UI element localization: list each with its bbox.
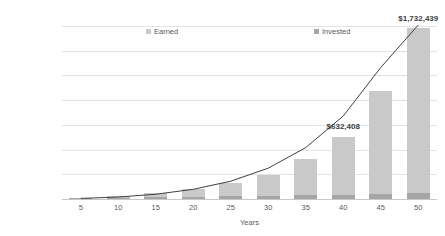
bar-segment-invested[interactable]: [182, 197, 205, 199]
bar-column[interactable]: [69, 198, 92, 199]
data-label: $1,732,439: [398, 14, 438, 23]
bar-segment-invested[interactable]: [219, 196, 242, 199]
x-axis-tick-label: 35: [302, 203, 310, 212]
gridline: [62, 199, 437, 200]
bar-segment-earned[interactable]: [407, 28, 430, 194]
legend-item-earned[interactable]: Earned: [146, 27, 178, 36]
bar-segment-invested[interactable]: [407, 193, 430, 199]
bar-segment-earned[interactable]: [294, 159, 317, 195]
bar-segment-earned[interactable]: [369, 91, 392, 194]
x-axis-tick-label: 10: [114, 203, 122, 212]
bar-segment-invested[interactable]: [332, 195, 355, 200]
x-axis-tick-label: 45: [377, 203, 385, 212]
legend-label-invested: Invested: [322, 27, 350, 36]
x-axis-tick-label: 50: [414, 203, 422, 212]
legend-swatch-invested: [314, 29, 319, 34]
bar-column[interactable]: [182, 189, 205, 199]
legend-label-earned: Earned: [154, 27, 178, 36]
bar-column[interactable]: [369, 91, 392, 199]
bar-segment-earned[interactable]: [332, 137, 355, 195]
bar-column[interactable]: [219, 183, 242, 199]
chart-legend: Earned Invested: [62, 27, 437, 38]
bar-segment-earned[interactable]: [257, 175, 280, 196]
bar-segment-invested[interactable]: [69, 198, 92, 199]
bar-series-group: [62, 26, 437, 199]
data-label: $632,408: [327, 122, 360, 131]
bar-column[interactable]: [407, 28, 430, 199]
legend-item-invested[interactable]: Invested: [314, 27, 350, 36]
bar-segment-invested[interactable]: [144, 197, 167, 199]
x-axis-tick-label: 25: [227, 203, 235, 212]
x-axis-title: Years: [62, 218, 437, 227]
bar-segment-invested[interactable]: [107, 198, 130, 199]
bar-column[interactable]: [332, 136, 355, 199]
bar-column[interactable]: [107, 196, 130, 199]
bar-segment-earned[interactable]: [219, 183, 242, 196]
x-axis-tick-label: 15: [152, 203, 160, 212]
bar-segment-invested[interactable]: [294, 195, 317, 199]
bar-column[interactable]: [257, 174, 280, 199]
x-axis-tick-label: 40: [339, 203, 347, 212]
plot-area: 5101520253035404550 Years: [62, 26, 437, 199]
x-axis-tick-label: 20: [189, 203, 197, 212]
bar-column[interactable]: [144, 193, 167, 199]
bar-segment-earned[interactable]: [182, 189, 205, 197]
investment-growth-chart: $0$250,000$500,000$750,000$1,000,000$1,2…: [0, 0, 445, 236]
x-axis-tick-label: 30: [264, 203, 272, 212]
bar-segment-invested[interactable]: [369, 194, 392, 199]
x-axis-tick-label: 5: [79, 203, 83, 212]
legend-swatch-earned: [146, 29, 151, 34]
bar-segment-invested[interactable]: [257, 196, 280, 199]
bar-column[interactable]: [294, 159, 317, 199]
